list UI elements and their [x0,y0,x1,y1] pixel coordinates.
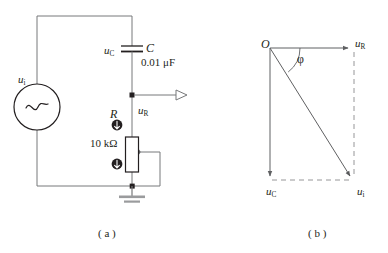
phasor-angle-label: φ [297,53,304,65]
capacitor-symbol [121,46,143,56]
wiper-arrow-icon [139,150,141,155]
capacitor-voltage-label: uC [104,45,114,58]
phasor-vector-ui [270,48,350,176]
figure-root: ui uC C 0.01 μF uR R 10 kΩ O φ uR uC ui … [0,0,388,253]
resistor-body [126,137,139,172]
caption-a: ( a ) [98,228,116,239]
adjust-marker-lower [112,159,123,170]
phasor-diagram [270,48,354,180]
capacitor-value: 0.01 μF [141,57,175,68]
capacitor-designator: C [146,42,154,54]
potentiometer-symbol [126,137,142,172]
circuit-diagram [14,16,187,202]
phasor-label-ur: uR [355,38,365,51]
phasor-label-uc: uC [266,186,276,199]
phasor-origin-label: O [261,38,270,50]
caption-b: ( b ) [308,228,326,239]
open-arrow-icon [176,90,187,100]
adjust-marker-upper [112,120,123,131]
ac-source [14,84,60,130]
resistor-voltage-label: uR [138,105,148,118]
output-terminal [134,90,187,100]
ac-source-body [14,84,60,130]
source-voltage-label: ui [18,74,26,87]
figure-svg [0,0,388,253]
resistor-designator: R [110,108,117,120]
wire-wiper-feedback [141,152,160,186]
phasor-label-ui: ui [357,186,365,199]
output-node-dot [130,93,135,98]
resistor-value: 10 kΩ [90,138,117,149]
